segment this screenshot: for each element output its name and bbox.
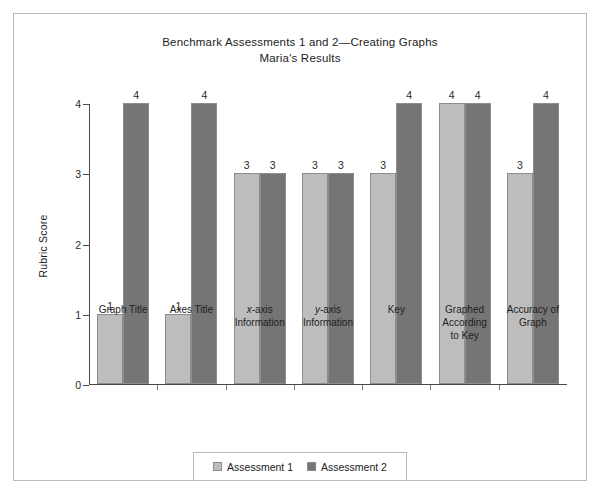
bar: 3 <box>302 173 328 384</box>
legend-swatch <box>307 462 316 471</box>
bar-value-label: 4 <box>543 89 549 101</box>
bar: 3 <box>328 173 354 384</box>
y-axis-tick <box>83 385 89 386</box>
y-axis-tick-label: 0 <box>61 385 81 386</box>
x-axis-category-label: Accuracy ofGraph <box>499 303 567 329</box>
bar-value-label: 3 <box>312 159 318 171</box>
x-axis-category-label: y-axisInformation <box>294 303 362 329</box>
x-axis-category-label: Graph Title <box>89 303 157 316</box>
x-axis-category-label: GraphedAccordingto Key <box>430 303 498 342</box>
bar: 1 <box>97 314 123 384</box>
bar: 4 <box>396 103 422 384</box>
x-axis-line <box>89 384 567 385</box>
y-axis-tick-label: 2 <box>61 245 81 246</box>
x-axis-tick <box>362 385 363 390</box>
y-axis-tick <box>83 174 89 175</box>
bar-value-label: 3 <box>244 159 250 171</box>
y-axis-line <box>89 104 90 385</box>
legend-swatch <box>213 462 222 471</box>
chart-title: Benchmark Assessments 1 and 2—Creating G… <box>14 34 586 66</box>
bar-group: 34 <box>370 103 422 384</box>
bar-value-label: 3 <box>338 159 344 171</box>
y-axis-tick <box>83 104 89 105</box>
bar-value-label: 4 <box>449 89 455 101</box>
x-axis-tick <box>226 385 227 390</box>
bar-value-label: 3 <box>270 159 276 171</box>
x-axis-tick <box>499 385 500 390</box>
x-axis-category-label: Axes Title <box>157 303 225 316</box>
bar-group: 14 <box>165 103 217 384</box>
bar-value-label: 4 <box>406 89 412 101</box>
bar-group: 33 <box>302 103 354 384</box>
y-axis-tick-label: 4 <box>61 104 81 105</box>
bar: 1 <box>165 314 191 384</box>
bar: 4 <box>533 103 559 384</box>
bar: 3 <box>260 173 286 384</box>
legend-item: Assessment 2 <box>307 461 387 473</box>
x-axis-category-label: Key <box>362 303 430 316</box>
bar: 3 <box>234 173 260 384</box>
x-axis-tick <box>157 385 158 390</box>
legend-label: Assessment 1 <box>227 461 293 473</box>
bar: 3 <box>507 173 533 384</box>
chart-legend: Assessment 1Assessment 2 <box>193 452 407 481</box>
bar: 4 <box>191 103 217 384</box>
x-axis-tick <box>294 385 295 390</box>
bar: 3 <box>370 173 396 384</box>
bar: 4 <box>123 103 149 384</box>
bar-value-label: 3 <box>517 159 523 171</box>
y-axis-title: Rubric Score <box>37 186 49 306</box>
chart-title-line-1: Benchmark Assessments 1 and 2—Creating G… <box>14 34 586 50</box>
bar-value-label: 4 <box>475 89 481 101</box>
bar-group: 34 <box>507 103 559 384</box>
y-axis-tick <box>83 245 89 246</box>
x-axis-tick <box>430 385 431 390</box>
bar-value-label: 4 <box>202 89 208 101</box>
x-axis-category-label: x-axisInformation <box>226 303 294 329</box>
bar-value-label: 4 <box>133 89 139 101</box>
plot-area: 01234 14143333344434 <box>89 104 567 385</box>
bar-group: 14 <box>97 103 149 384</box>
chart-figure: Benchmark Assessments 1 and 2—Creating G… <box>13 13 587 481</box>
y-axis-tick-label: 1 <box>61 315 81 316</box>
bar-value-label: 3 <box>380 159 386 171</box>
bar-group: 33 <box>234 103 286 384</box>
legend-item: Assessment 1 <box>213 461 293 473</box>
y-axis-tick-label: 3 <box>61 174 81 175</box>
chart-title-line-2: Maria's Results <box>14 50 586 66</box>
legend-label: Assessment 2 <box>321 461 387 473</box>
